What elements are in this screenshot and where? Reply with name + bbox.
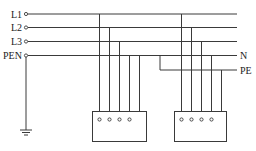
terminal-icon [24,26,27,29]
label-l2: L2 [11,22,22,33]
terminal-icon [200,118,203,121]
terminal-icon [118,118,121,121]
terminal-icon [24,40,27,43]
bus-pe [160,56,237,71]
bus-lines [28,14,237,70]
ground-connection [20,57,32,135]
terminal-icon [180,118,183,121]
terminal-icon [210,118,213,121]
terminal-icon [98,118,101,121]
tn-c-s-diagram: L1 L2 L3 PEN N PE [0,0,256,151]
source-terminals [24,12,27,57]
load-2-box [175,112,227,142]
label-pe: PE [240,65,252,76]
load-1-wires [100,14,140,118]
terminal-icon [128,118,131,121]
terminal-icon [24,54,27,57]
load-1-box [93,112,147,142]
terminal-icon [190,118,193,121]
ground-icon [20,130,32,135]
load-2-wires [182,14,222,118]
label-n: N [240,50,247,61]
label-pen: PEN [3,50,22,61]
label-l3: L3 [11,36,22,47]
label-l1: L1 [11,9,22,20]
terminal-icon [108,118,111,121]
terminal-icon [24,12,27,15]
